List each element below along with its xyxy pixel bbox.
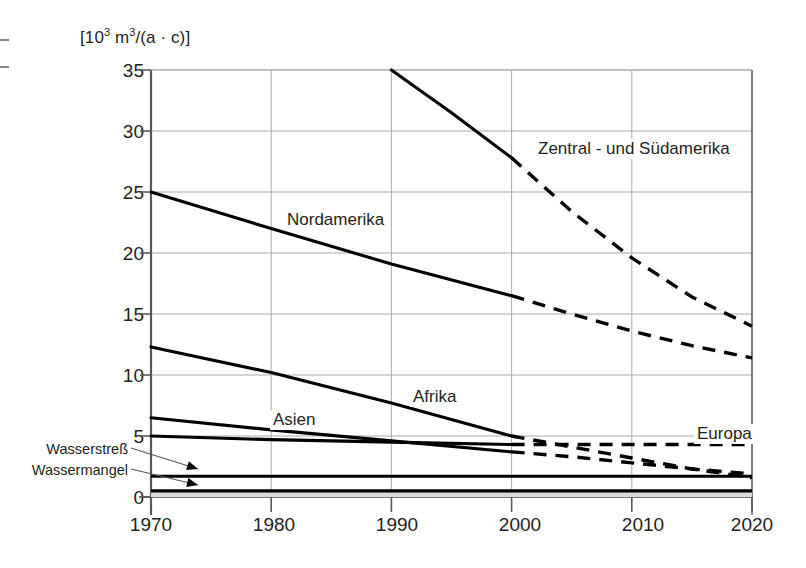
series-line-solid-asien xyxy=(151,418,512,452)
threshold-label-wassermangel: Wassermangel xyxy=(6,462,128,478)
series-label-zentral-und-suedamerika: Zentral - und Südamerika xyxy=(535,139,733,159)
water-availability-chart: [103 m3/(a · c)] 35 30 25 20 15 10 5 0 1… xyxy=(0,0,806,568)
series-label-europa: Europa xyxy=(694,424,755,444)
series-label-nordamerika: Nordamerika xyxy=(284,210,387,230)
series-label-asien: Asien xyxy=(270,410,319,430)
threshold-label-wasserstress: Wasserstreß xyxy=(10,441,128,457)
wassermangel-arrowhead xyxy=(186,478,198,487)
series-label-afrika: Afrika xyxy=(410,387,459,407)
plot-canvas xyxy=(0,0,806,568)
wasserstress-arrowhead xyxy=(186,461,198,470)
series-line-solid-zentral-und-s-damerika xyxy=(391,70,511,158)
series-line-solid-nordamerika xyxy=(151,192,512,296)
series-line-solid-europa xyxy=(151,436,512,445)
